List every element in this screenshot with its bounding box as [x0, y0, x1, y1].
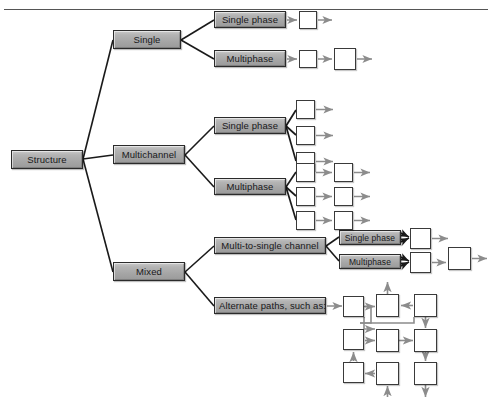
node-multichannel-multiphase[interactable]: Multiphase — [214, 178, 286, 195]
process-box[interactable] — [299, 50, 317, 68]
alt-path-box[interactable] — [343, 296, 364, 317]
node-single[interactable]: Single — [113, 30, 181, 49]
node-label: Single — [133, 34, 160, 45]
node-label: Mixed — [136, 266, 162, 277]
process-box[interactable] — [334, 163, 353, 182]
fanout-connectors — [286, 110, 296, 220]
alt-path-box[interactable] — [376, 362, 399, 385]
alt-path-box[interactable] — [414, 362, 437, 385]
process-box[interactable] — [334, 187, 353, 206]
node-single-multiphase[interactable]: Multiphase — [214, 50, 286, 67]
alt-path-box[interactable] — [376, 329, 399, 352]
alt-path-box[interactable] — [414, 294, 437, 317]
alt-path-box[interactable] — [414, 329, 437, 352]
process-box[interactable] — [296, 126, 315, 145]
node-label: Multichannel — [122, 149, 177, 160]
merge-connectors — [401, 233, 409, 266]
node-label: Single phase — [345, 233, 395, 243]
process-box[interactable] — [296, 187, 315, 206]
node-label: Structure — [27, 154, 66, 165]
alt-path-box[interactable] — [343, 362, 364, 383]
node-label: Single phase — [222, 14, 278, 25]
node-label: Multiphase — [227, 53, 274, 64]
node-multi-to-single-channel[interactable]: Multi-to-single channel — [214, 237, 326, 254]
alt-path-box[interactable] — [343, 329, 364, 350]
figure-canvas: Structure Single Multichannel Mixed Sing… — [0, 0, 492, 407]
process-box[interactable] — [334, 211, 353, 230]
node-single-single-phase[interactable]: Single phase — [214, 11, 286, 28]
node-label: Multi-to-single channel — [221, 240, 318, 251]
process-box[interactable] — [299, 11, 317, 29]
node-label: Alternate paths, such as: — [219, 300, 326, 311]
node-label: Multiphase — [349, 257, 391, 267]
node-mts-single-phase[interactable]: Single phase — [339, 230, 401, 245]
process-box[interactable] — [410, 252, 431, 273]
process-box[interactable] — [296, 100, 315, 119]
process-box[interactable] — [410, 228, 431, 249]
node-structure[interactable]: Structure — [11, 150, 83, 169]
alt-path-box[interactable] — [376, 294, 399, 317]
node-multichannel[interactable]: Multichannel — [113, 145, 185, 164]
node-alternate-paths[interactable]: Alternate paths, such as: — [214, 297, 326, 314]
process-box[interactable] — [334, 48, 356, 70]
process-box[interactable] — [296, 163, 315, 182]
node-mts-multiphase[interactable]: Multiphase — [339, 254, 401, 269]
node-label: Multiphase — [227, 181, 274, 192]
node-label: Single phase — [222, 120, 278, 131]
node-mixed[interactable]: Mixed — [113, 262, 185, 281]
process-box[interactable] — [448, 247, 471, 270]
node-multichannel-single-phase[interactable]: Single phase — [214, 117, 286, 134]
process-box[interactable] — [296, 211, 315, 230]
